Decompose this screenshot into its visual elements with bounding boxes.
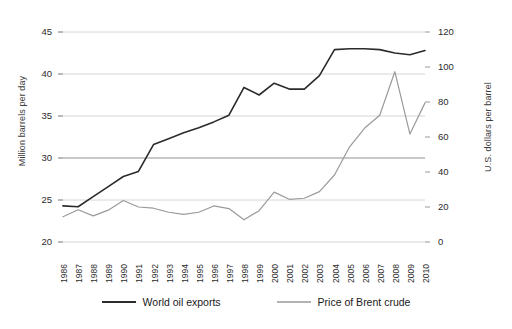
gridlines	[63, 32, 425, 242]
legend-label: World oil exports	[143, 296, 221, 308]
legend-item: World oil exports	[102, 296, 221, 308]
legend-label: Price of Brent crude	[318, 296, 411, 308]
series-line-1	[63, 72, 425, 220]
left-tick-marks	[58, 32, 63, 242]
legend-item: Price of Brent crude	[277, 296, 411, 308]
plot-area	[0, 0, 512, 329]
right-tick-marks	[425, 32, 430, 242]
chart-legend: World oil exportsPrice of Brent crude	[0, 296, 512, 308]
legend-swatch-icon	[277, 298, 311, 306]
series-line-0	[63, 49, 425, 207]
legend-swatch-icon	[102, 298, 136, 306]
chart-container: Million barrels per day U.S. dollars per…	[0, 0, 512, 329]
